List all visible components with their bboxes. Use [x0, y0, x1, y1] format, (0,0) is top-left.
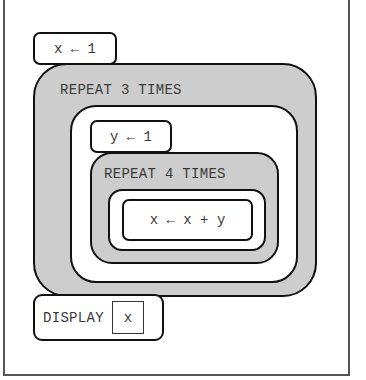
assign-y-block: y ← 1: [90, 120, 172, 153]
repeat-3-times-label: REPEAT 3 TIMES: [60, 82, 182, 98]
assign-x-plus-y-block: x ← x + y: [122, 199, 253, 241]
display-block: DISPLAY x: [33, 294, 164, 341]
assign-x-text: x ← 1: [54, 41, 96, 57]
repeat-4-times-label: REPEAT 4 TIMES: [104, 166, 226, 182]
assign-x-plus-y-text: x ← x + y: [150, 212, 226, 228]
assign-y-text: y ← 1: [110, 129, 152, 145]
display-argument-text: x: [124, 310, 132, 326]
display-argument-box: x: [112, 301, 144, 334]
assign-x-block: x ← 1: [33, 32, 117, 65]
display-label: DISPLAY: [43, 310, 104, 326]
